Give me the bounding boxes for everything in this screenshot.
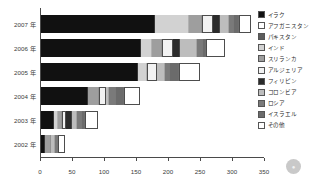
bar-segment[interactable]	[170, 63, 179, 81]
bar-stack[interactable]	[41, 111, 98, 129]
legend-label: コロンビア	[268, 88, 298, 96]
legend: イラクアフガニスタンパキスタンインドスリランカアルジェリアフィリピンコロンビアロ…	[258, 9, 315, 131]
x-axis-tick	[40, 158, 41, 161]
legend-label: スリランカ	[268, 55, 298, 63]
legend-label: パキスタン	[268, 33, 298, 41]
legend-label: ロシア	[268, 99, 286, 107]
legend-swatch-icon	[258, 44, 265, 51]
x-axis-tick-label: 0	[38, 168, 41, 175]
legend-swatch-icon	[258, 100, 265, 107]
legend-item[interactable]: パキスタン	[258, 31, 315, 42]
legend-item[interactable]: イラク	[258, 9, 315, 20]
legend-swatch-icon	[258, 11, 265, 18]
bar-segment[interactable]	[41, 87, 88, 105]
legend-item[interactable]: その他	[258, 120, 315, 131]
watermark-icon: ●	[292, 164, 296, 170]
legend-item[interactable]: インド	[258, 42, 315, 53]
bar-segment[interactable]	[85, 111, 98, 129]
legend-item[interactable]: アルジェリア	[258, 64, 315, 75]
x-axis-tick-label: 100	[99, 168, 109, 175]
bar-segment[interactable]	[141, 39, 153, 57]
y-axis-tick-label: 2003 年	[14, 116, 36, 125]
plot-area: 050100150200250300350	[40, 8, 264, 158]
y-axis-tick-label: 2002 年	[14, 140, 36, 149]
bar-segment[interactable]	[202, 15, 213, 33]
x-axis-tick-label: 150	[131, 168, 141, 175]
bar-segment[interactable]	[155, 15, 189, 33]
legend-swatch-icon	[258, 33, 265, 40]
legend-label: フィリピン	[268, 77, 298, 85]
legend-swatch-icon	[258, 22, 265, 29]
x-axis-tick-label: 200	[163, 168, 173, 175]
x-axis-tick	[72, 158, 73, 161]
x-axis-tick	[200, 158, 201, 161]
bar-stack[interactable]	[41, 135, 65, 153]
bar-segment[interactable]	[162, 39, 173, 57]
legend-label: インド	[268, 44, 286, 52]
legend-item[interactable]: イスラエル	[258, 109, 315, 120]
bar-stack[interactable]	[41, 63, 200, 81]
x-axis-tick-label: 250	[195, 168, 205, 175]
bar-segment[interactable]	[116, 87, 123, 105]
bar-segment[interactable]	[239, 15, 251, 33]
stacked-bar-chart: 2007 年2006 年2005 年2004 年2003 年2002 年 050…	[0, 0, 315, 189]
legend-swatch-icon	[258, 78, 265, 85]
legend-item[interactable]: ロシア	[258, 98, 315, 109]
x-axis-tick	[136, 158, 137, 161]
bar-segment[interactable]	[180, 39, 197, 57]
bar-segment[interactable]	[41, 63, 138, 81]
legend-swatch-icon	[258, 67, 265, 74]
legend-item[interactable]: フィリピン	[258, 76, 315, 87]
bar-segment[interactable]	[157, 63, 165, 81]
legend-swatch-icon	[258, 55, 265, 62]
bar-segment[interactable]	[152, 39, 162, 57]
bar-segment[interactable]	[58, 135, 64, 153]
bar-segment[interactable]	[179, 63, 199, 81]
watermark-badge: ●	[286, 159, 301, 174]
bar-stack[interactable]	[41, 39, 225, 57]
legend-item[interactable]: スリランカ	[258, 53, 315, 64]
bar-segment[interactable]	[88, 87, 99, 105]
y-axis-tick-label: 2005 年	[14, 68, 36, 77]
bar-segment[interactable]	[41, 15, 155, 33]
legend-item[interactable]: コロンビア	[258, 87, 315, 98]
bar-segment[interactable]	[189, 15, 202, 33]
x-axis-tick-label: 50	[69, 168, 76, 175]
legend-label: イラク	[268, 11, 286, 19]
x-axis-tick	[104, 158, 105, 161]
legend-label: アフガニスタン	[268, 22, 309, 30]
y-axis-tick-label: 2006 年	[14, 44, 36, 53]
legend-swatch-icon	[258, 122, 265, 129]
x-axis-tick	[232, 158, 233, 161]
legend-swatch-icon	[258, 89, 265, 96]
bar-segment[interactable]	[173, 39, 181, 57]
y-axis-labels: 2007 年2006 年2005 年2004 年2003 年2002 年	[0, 8, 38, 158]
legend-item[interactable]: アフガニスタン	[258, 20, 315, 31]
y-axis-tick-label: 2007 年	[14, 20, 36, 29]
x-axis-tick	[264, 158, 265, 161]
x-axis-tick	[168, 158, 169, 161]
x-axis-line	[40, 157, 264, 158]
bar-segment[interactable]	[41, 39, 141, 57]
bar-segment[interactable]	[220, 15, 229, 33]
bar-segment[interactable]	[147, 63, 157, 81]
y-axis-tick-label: 2004 年	[14, 92, 36, 101]
x-axis-tick-label: 300	[227, 168, 237, 175]
legend-label: アルジェリア	[268, 66, 303, 74]
bar-segment[interactable]	[124, 87, 141, 105]
x-axis-tick-label: 350	[259, 168, 269, 175]
legend-label: その他	[268, 121, 286, 129]
bar-segment[interactable]	[138, 63, 147, 81]
bar-stack[interactable]	[41, 15, 251, 33]
legend-label: イスラエル	[268, 110, 298, 118]
bar-segment[interactable]	[206, 39, 225, 57]
bar-segment[interactable]	[41, 111, 54, 129]
legend-swatch-icon	[258, 111, 265, 118]
bar-segment[interactable]	[213, 15, 220, 33]
bar-segment[interactable]	[109, 87, 116, 105]
bar-stack[interactable]	[41, 87, 140, 105]
